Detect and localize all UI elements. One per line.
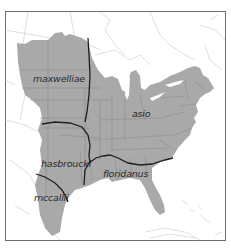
label-asio: asio <box>132 108 151 119</box>
label-maxwelliae: maxwelliae <box>33 73 85 84</box>
map-canvas: maxwelliae asio hasbroucki floridanus mc… <box>0 0 231 248</box>
label-mccallii: mccallii <box>34 192 69 203</box>
range-map: maxwelliae asio hasbroucki floridanus mc… <box>0 0 231 248</box>
label-floridanus: floridanus <box>103 168 148 179</box>
label-hasbrouckii: hasbroucki <box>41 158 91 169</box>
